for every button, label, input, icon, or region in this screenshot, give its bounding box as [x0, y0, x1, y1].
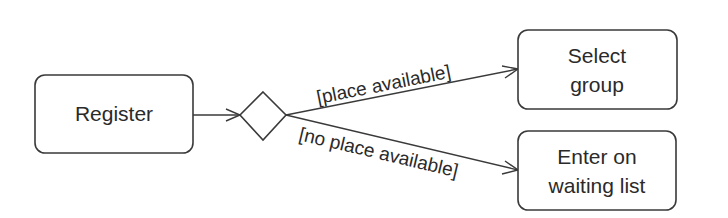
select-group-label-line2: group — [570, 73, 624, 96]
waiting-list-label-line1: Enter on — [557, 145, 636, 168]
select-group-label-line1: Select — [568, 44, 627, 67]
activity-diagram: Register [place available] [no place ava… — [0, 0, 728, 218]
edge-register-to-decision — [193, 109, 240, 121]
guard-place-available: [place available] — [315, 61, 453, 108]
select-group-box — [518, 30, 677, 109]
edge-decision-to-select-group: [place available] — [286, 61, 518, 115]
register-label: Register — [75, 102, 153, 125]
action-register[interactable]: Register — [35, 75, 193, 153]
action-select-group[interactable]: Select group — [518, 30, 677, 109]
decision-node[interactable] — [240, 92, 286, 140]
edge-decision-to-waiting-list: [no place available] — [286, 115, 518, 181]
guard-no-place-available: [no place available] — [297, 123, 460, 181]
action-waiting-list[interactable]: Enter on waiting list — [518, 131, 676, 210]
waiting-list-box — [518, 131, 676, 210]
waiting-list-label-line2: waiting list — [548, 174, 646, 197]
